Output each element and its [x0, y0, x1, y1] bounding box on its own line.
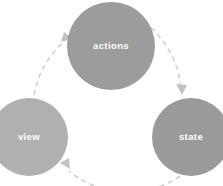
node-label-view: view	[18, 131, 40, 142]
diagram-canvas-svg: actions view state	[0, 0, 223, 186]
node-label-actions: actions	[93, 40, 129, 51]
node-label-state: state	[179, 131, 203, 142]
arrowhead-into-view	[60, 158, 70, 169]
edge-state-to-view	[69, 171, 180, 186]
arrowhead-into-state	[176, 84, 187, 95]
edge-view-to-actions	[34, 40, 66, 95]
cycle-diagram: actions view state	[0, 0, 223, 186]
